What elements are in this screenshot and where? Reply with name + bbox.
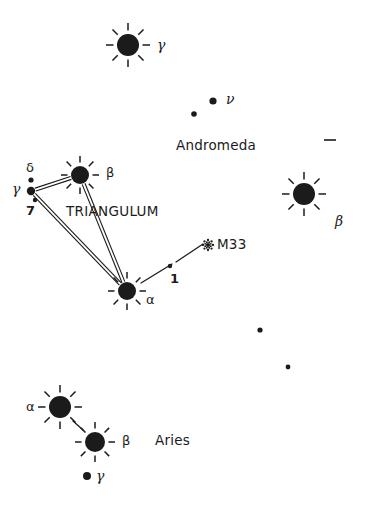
galaxy-stipple xyxy=(207,249,209,251)
point-star-delta-trianguli-label: δ xyxy=(26,161,34,174)
galaxy-stipple xyxy=(210,240,212,242)
point-star-1-trianguli xyxy=(168,264,172,268)
star-disc xyxy=(293,183,315,205)
sky-canvas xyxy=(0,0,369,506)
constellation-label-triangulum: TRIANGULUM xyxy=(66,205,159,219)
constellation-line-line-beta-gamma-tri-rail-0 xyxy=(36,179,72,191)
point-star-gamma-trianguli-label: γ xyxy=(12,182,20,196)
star-ray xyxy=(314,204,319,209)
star-alpha-arietis-label: α xyxy=(26,400,35,413)
galaxy-stipple xyxy=(204,245,206,247)
point-star-mu-andromedae xyxy=(191,111,197,117)
star-disc xyxy=(117,34,139,56)
point-stars-layer xyxy=(27,97,291,480)
star-ray xyxy=(138,29,143,34)
star-ray xyxy=(114,300,119,305)
galaxy-stipple xyxy=(203,240,205,242)
star-beta-trianguli xyxy=(61,156,99,194)
galaxy-stipple xyxy=(210,247,212,249)
star-ray xyxy=(136,300,141,305)
constellation-line-line-alpha-beta-tri-rail-1 xyxy=(85,183,125,281)
point-star-nu-andromedae xyxy=(209,97,216,104)
point-star-gamma-arietis xyxy=(83,472,91,480)
point-star-7-trianguli xyxy=(33,198,37,202)
star-ray xyxy=(314,178,319,183)
star-ray xyxy=(81,428,86,433)
star-ray xyxy=(105,428,110,433)
star-ray xyxy=(288,204,293,209)
star-ray xyxy=(138,55,143,60)
star-disc xyxy=(49,396,71,418)
point-star-gamma-arietis-label: γ xyxy=(96,469,104,483)
star-ray xyxy=(288,178,293,183)
constellation-label-andromeda: Andromeda xyxy=(176,139,256,153)
galaxy-stipple xyxy=(206,241,208,243)
galaxy-stipple xyxy=(204,243,206,245)
galaxy-stipple xyxy=(210,245,212,247)
star-ray xyxy=(81,452,86,457)
point-star-gamma-trianguli xyxy=(27,187,35,195)
star-alpha-trianguli xyxy=(108,272,146,310)
star-chart: γβαβαβδγ7ν1γ TRIANGULUM Andromeda Aries … xyxy=(0,0,369,506)
point-star-field-star-2 xyxy=(286,365,291,370)
constellation-line-line-alpha-beta-tri xyxy=(82,183,125,283)
galaxy-stipple xyxy=(208,241,210,243)
star-beta-arietis xyxy=(75,422,115,462)
pointer-line-pointer-1-to-m33 xyxy=(176,244,203,262)
star-ray xyxy=(89,162,94,167)
star-ray xyxy=(67,162,72,167)
deep-sky-label-m33: M33 xyxy=(217,238,246,252)
galaxy-stipple xyxy=(206,247,208,249)
star-alpha-arietis xyxy=(38,385,82,429)
star-ray xyxy=(105,452,110,457)
galaxy-stipple xyxy=(208,247,210,249)
star-beta-arietis-label: β xyxy=(122,434,130,447)
galaxy-stipple xyxy=(202,244,204,246)
star-disc xyxy=(85,432,105,452)
star-alpha-trianguli-label: α xyxy=(146,293,155,306)
star-gamma-andromedae xyxy=(106,23,150,67)
galaxy-stipple xyxy=(203,247,205,249)
star-disc xyxy=(71,166,89,184)
star-ray xyxy=(89,184,94,189)
star-ray xyxy=(112,29,117,34)
star-disc xyxy=(118,282,136,300)
star-ray xyxy=(67,184,72,189)
star-ray xyxy=(44,417,49,422)
constellation-label-aries: Aries xyxy=(155,434,190,448)
point-star-nu-andromedae-label: ν xyxy=(226,92,235,106)
star-beta-trianguli-label: β xyxy=(106,166,114,179)
dso-m33 xyxy=(202,239,214,251)
galaxy-core xyxy=(206,243,210,247)
point-star-delta-trianguli xyxy=(28,177,33,182)
galaxy-stipple xyxy=(207,239,209,241)
star-gamma-andromedae-label: γ xyxy=(157,38,165,52)
galaxy-stipple xyxy=(212,244,214,246)
star-ray xyxy=(44,391,49,396)
constellation-line-line-beta-gamma-tri-rail-1 xyxy=(35,177,71,189)
stars-layer xyxy=(38,23,326,462)
star-ray xyxy=(136,278,141,283)
point-star-field-star-1 xyxy=(257,327,262,332)
point-star-7-trianguli-label: 7 xyxy=(26,204,35,217)
star-beta-andromedae-label: β xyxy=(335,214,343,228)
pointer-line-pointer-alpha-to-m33 xyxy=(141,264,172,283)
deep-sky-layer xyxy=(202,239,214,251)
star-ray xyxy=(70,391,75,396)
star-beta-andromedae xyxy=(282,172,326,216)
point-star-1-trianguli-label: 1 xyxy=(170,272,179,285)
galaxy-stipple xyxy=(210,243,212,245)
constellation-line-line-beta-gamma-tri xyxy=(35,177,71,191)
star-ray xyxy=(112,55,117,60)
